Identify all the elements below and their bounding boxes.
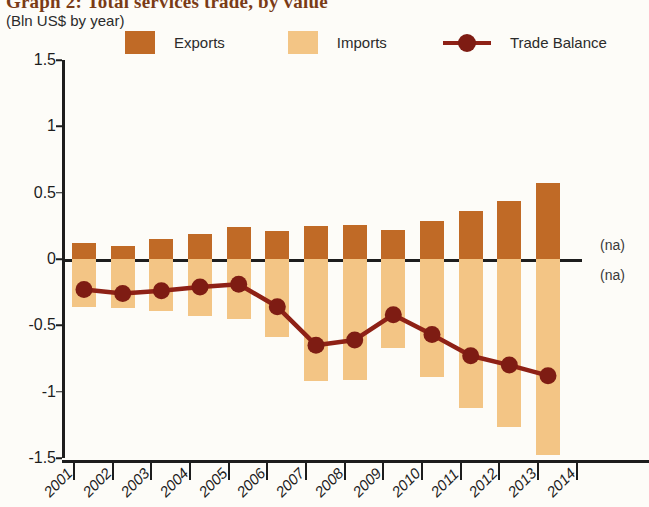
trade-balance-point[interactable]	[308, 337, 325, 354]
trade-balance-point[interactable]	[192, 278, 209, 295]
y-tick-mark	[56, 325, 62, 327]
legend-item-imports[interactable]: Imports	[288, 31, 387, 54]
x-tick-label: 2003	[117, 464, 153, 500]
y-tick-label: 0	[47, 250, 56, 268]
x-tick-label: 2010	[388, 464, 424, 500]
legend-swatch-imports	[288, 31, 318, 54]
trade-balance-point[interactable]	[501, 357, 518, 374]
y-tick-label: 1	[47, 117, 56, 135]
x-tick-label: 2002	[79, 464, 115, 500]
trade-balance-line-layer	[62, 60, 582, 458]
legend-item-trade-balance[interactable]: Trade Balance	[443, 31, 607, 54]
y-tick-label: -1.5	[28, 449, 56, 467]
trade-balance-point[interactable]	[385, 306, 402, 323]
x-tick-label: 2004	[156, 464, 192, 500]
legend-swatch-exports	[125, 31, 155, 54]
y-tick-mark	[56, 391, 62, 393]
x-tick-label: 2012	[465, 464, 501, 500]
trade-balance-point[interactable]	[346, 331, 363, 348]
trade-balance-point[interactable]	[230, 276, 247, 293]
chart-legend: Exports Imports Trade Balance	[125, 31, 607, 54]
x-tick-label: 2011	[427, 465, 462, 500]
trade-balance-point[interactable]	[540, 367, 557, 384]
x-tick-label: 2008	[311, 464, 347, 500]
chart-subtitle: (Bln US$ by year)	[6, 12, 124, 29]
na-label-lower: (na)	[600, 267, 625, 283]
x-tick-label: 2006	[233, 464, 269, 500]
legend-label-exports: Exports	[174, 34, 225, 51]
trade-balance-point[interactable]	[462, 347, 479, 364]
legend-line-marker-icon	[443, 31, 491, 54]
legend-label-trade-balance: Trade Balance	[510, 34, 607, 51]
y-tick-mark	[56, 126, 62, 128]
y-tick-label: -1	[42, 383, 56, 401]
x-tick-label: 2014	[543, 464, 579, 500]
x-tick-label: 2005	[195, 464, 231, 500]
x-tick-label: 2013	[504, 464, 540, 500]
y-tick-label: -0.5	[28, 316, 56, 334]
legend-label-imports: Imports	[337, 34, 387, 51]
y-tick-label: 1.5	[34, 51, 56, 69]
x-tick-label: 2001	[40, 464, 76, 500]
plot-area	[62, 60, 582, 458]
trade-balance-line	[84, 284, 548, 376]
trade-balance-point[interactable]	[424, 326, 441, 343]
y-tick-mark	[56, 59, 62, 61]
y-tick-mark	[56, 258, 62, 260]
na-label-upper: (na)	[600, 237, 625, 253]
x-tick-label: 2009	[349, 464, 385, 500]
legend-item-exports[interactable]: Exports	[125, 31, 225, 54]
x-tick-label: 2007	[272, 464, 308, 500]
trade-balance-point[interactable]	[269, 298, 286, 315]
trade-balance-point[interactable]	[114, 285, 131, 302]
trade-balance-point[interactable]	[76, 281, 93, 298]
trade-balance-point[interactable]	[153, 282, 170, 299]
y-tick-label: 0.5	[34, 184, 56, 202]
y-tick-mark	[56, 192, 62, 194]
y-tick-mark	[56, 457, 62, 459]
y-axis-labels: 1.510.50-0.5-1-1.5	[0, 60, 56, 458]
